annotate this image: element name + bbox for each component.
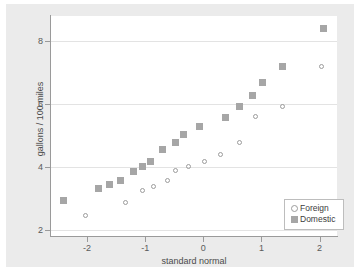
data-point [186, 164, 191, 169]
data-point [173, 168, 178, 173]
data-point [106, 181, 113, 188]
data-point [147, 158, 154, 165]
graph-region: 2468 -2-1012 standard normal gallons / 1… [6, 4, 354, 267]
gridline [51, 104, 337, 105]
data-point [165, 178, 170, 183]
x-tick-label: 2 [307, 243, 333, 253]
data-point [222, 114, 229, 121]
y-tick [45, 104, 50, 105]
data-point [259, 79, 266, 86]
gridline [51, 41, 337, 42]
data-point [130, 168, 137, 175]
filled-square-icon [289, 216, 300, 223]
data-point [236, 103, 243, 110]
legend-entry-domestic[interactable]: Domestic [289, 214, 339, 225]
y-tick [45, 167, 50, 168]
data-point [280, 104, 285, 109]
x-tick-label: -1 [132, 243, 158, 253]
data-point [139, 163, 146, 170]
data-point [320, 25, 327, 32]
x-tick [261, 237, 262, 242]
x-tick-label: 1 [248, 243, 274, 253]
data-point [60, 197, 67, 204]
x-tick [87, 237, 88, 242]
chart-figure: 2468 -2-1012 standard normal gallons / 1… [0, 0, 360, 274]
data-point [159, 146, 166, 153]
data-point [196, 123, 203, 130]
x-tick [320, 237, 321, 242]
x-tick [203, 237, 204, 242]
x-tick [145, 237, 146, 242]
data-point [249, 92, 256, 99]
data-point [237, 140, 242, 145]
gridline [51, 167, 337, 168]
x-axis-title: standard normal [51, 256, 337, 266]
data-point [172, 139, 179, 146]
data-point [202, 159, 207, 164]
legend-entry-label: Foreign [300, 203, 329, 214]
data-point [180, 131, 187, 138]
y-tick [45, 230, 50, 231]
x-axis-line [50, 236, 338, 237]
legend-entry-foreign[interactable]: Foreign [289, 203, 339, 214]
data-point [117, 177, 124, 184]
y-axis-line [50, 15, 51, 237]
x-tick-label: 0 [190, 243, 216, 253]
data-point [123, 200, 128, 205]
open-circle-icon [289, 205, 300, 212]
y-tick [45, 41, 50, 42]
data-point [279, 63, 286, 70]
y-axis-title: gallons / 100 miles [35, 39, 45, 199]
legend-entry-label: Domestic [300, 214, 335, 225]
legend[interactable]: Foreign Domestic [284, 199, 344, 230]
y-tick-label: 2 [21, 225, 43, 235]
data-point [95, 185, 102, 192]
x-tick-label: -2 [74, 243, 100, 253]
data-point [151, 184, 156, 189]
